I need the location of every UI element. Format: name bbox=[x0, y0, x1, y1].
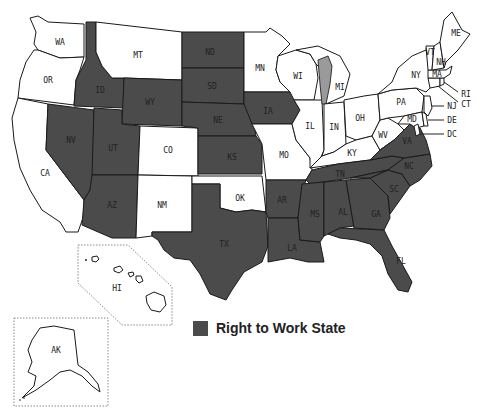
label-MD: MD bbox=[407, 115, 417, 124]
label-WV: WV bbox=[378, 131, 388, 140]
label-NC: NC bbox=[404, 162, 414, 171]
label-NE: NE bbox=[213, 116, 223, 125]
aleutian-1 bbox=[19, 399, 21, 401]
label-UT: UT bbox=[108, 144, 118, 153]
label-RI: RI bbox=[461, 90, 471, 99]
state-NY bbox=[378, 50, 432, 94]
state-NJ bbox=[424, 96, 432, 116]
label-GA: GA bbox=[371, 210, 381, 219]
label-NM: NM bbox=[157, 201, 167, 210]
us-right-to-work-map: WA OR CA ID NV MT WY UT AZ CO NM ND SD N… bbox=[0, 0, 486, 416]
label-MO: MO bbox=[279, 151, 289, 160]
label-NH: NH bbox=[436, 58, 446, 67]
label-PA: PA bbox=[396, 98, 406, 107]
label-FL: FL bbox=[396, 257, 406, 266]
state-HI bbox=[92, 256, 166, 312]
label-AL: AL bbox=[338, 208, 348, 217]
label-MI: MI bbox=[335, 83, 345, 92]
hawaii-islet bbox=[85, 259, 87, 261]
state-RI bbox=[440, 78, 444, 86]
label-OR: OR bbox=[43, 76, 53, 85]
label-WA: WA bbox=[55, 38, 65, 47]
label-NJ: NJ bbox=[447, 102, 457, 111]
label-NV: NV bbox=[66, 136, 76, 145]
aleutian-2 bbox=[23, 397, 25, 399]
label-MA: MA bbox=[432, 70, 442, 79]
label-KS: KS bbox=[227, 153, 237, 162]
label-VT: VT bbox=[425, 48, 435, 57]
label-VA: VA bbox=[402, 137, 412, 146]
label-AZ: AZ bbox=[107, 201, 117, 210]
label-AK: AK bbox=[51, 346, 61, 355]
label-TX: TX bbox=[219, 240, 229, 249]
label-DC: DC bbox=[447, 130, 457, 139]
leader-RI bbox=[444, 82, 458, 92]
label-IL: IL bbox=[305, 122, 315, 131]
label-TN: TN bbox=[335, 170, 345, 179]
leader-CT bbox=[438, 86, 458, 102]
label-ME: ME bbox=[451, 29, 461, 38]
label-WI: WI bbox=[293, 72, 303, 81]
map-legend: Right to Work State bbox=[193, 320, 346, 336]
label-OK: OK bbox=[235, 194, 245, 203]
label-CO: CO bbox=[163, 146, 173, 155]
label-NY: NY bbox=[411, 71, 421, 80]
label-LA: LA bbox=[287, 244, 297, 253]
label-ND: ND bbox=[205, 48, 215, 57]
label-KY: KY bbox=[347, 149, 357, 158]
label-AR: AR bbox=[277, 196, 287, 205]
label-HI: HI bbox=[112, 284, 122, 293]
label-SC: SC bbox=[389, 185, 399, 194]
label-OH: OH bbox=[355, 114, 365, 123]
label-MT: MT bbox=[133, 51, 143, 60]
legend-label: Right to Work State bbox=[216, 320, 346, 336]
legend-swatch bbox=[193, 321, 208, 336]
label-MN: MN bbox=[255, 64, 265, 73]
label-WY: WY bbox=[145, 98, 155, 107]
label-IA: IA bbox=[263, 107, 273, 116]
label-MS: MS bbox=[310, 210, 320, 219]
label-CA: CA bbox=[40, 169, 50, 178]
label-SD: SD bbox=[207, 82, 217, 91]
label-ID: ID bbox=[95, 86, 105, 95]
state-AK bbox=[22, 326, 100, 398]
label-CT: CT bbox=[461, 100, 471, 109]
label-DE: DE bbox=[447, 116, 457, 125]
label-IN: IN bbox=[329, 123, 339, 132]
